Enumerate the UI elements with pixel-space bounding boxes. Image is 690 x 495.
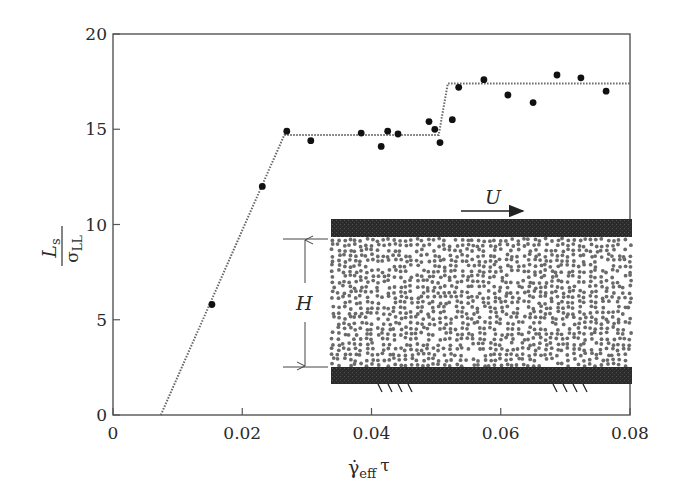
y-tick-label: 0 [96, 405, 107, 425]
data-point [449, 116, 456, 123]
data-point [505, 92, 512, 99]
data-point [384, 128, 391, 135]
data-point [530, 99, 537, 106]
y-tick-label: 15 [85, 119, 107, 139]
data-point [455, 84, 462, 91]
data-point [603, 88, 610, 95]
y-tick-label: 20 [85, 24, 107, 44]
bottom-wall [331, 367, 632, 384]
svg-text:σLL: σLL [62, 235, 85, 263]
x-tick-label: 0.06 [482, 423, 520, 443]
data-point [431, 126, 438, 133]
inset-H-label: H [295, 292, 313, 314]
data-point [426, 118, 433, 125]
data-point [395, 131, 402, 138]
x-tick-label: 0.02 [223, 423, 261, 443]
inset-U-label: U [485, 186, 502, 208]
data-point [259, 183, 266, 190]
y-tick-label: 10 [85, 215, 107, 235]
data-point [437, 139, 444, 146]
y-axis-label: Ls σLL [38, 226, 85, 266]
data-point [481, 76, 488, 83]
data-point [209, 301, 216, 308]
inset-shear-schematic: U H [283, 186, 633, 392]
chart-plot: 00.020.040.060.0805101520 U H Ls σLL [0, 0, 690, 495]
data-point [554, 72, 561, 79]
data-point [283, 128, 290, 135]
y-tick-label: 5 [96, 310, 107, 330]
svg-text:γ̇effτ: γ̇effτ [348, 455, 390, 481]
data-point [578, 74, 585, 81]
data-point [358, 130, 365, 137]
fixed-wall-hatch-icon [378, 384, 587, 392]
fluid-particles [330, 237, 633, 369]
x-axis-label: γ̇effτ [348, 455, 390, 481]
svg-text:Ls: Ls [38, 238, 63, 258]
data-point [378, 143, 385, 150]
x-tick-label: 0.08 [611, 423, 649, 443]
top-wall [331, 219, 632, 237]
x-tick-label: 0 [108, 423, 119, 443]
x-tick-label: 0.04 [353, 423, 391, 443]
data-point [307, 137, 314, 144]
